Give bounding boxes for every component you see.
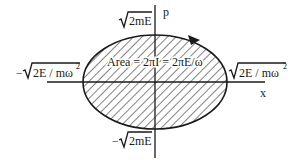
svg-text:2E / mω: 2E / mω [33, 66, 73, 80]
p-min-label: − 2mE [112, 132, 152, 148]
svg-text:Area = 2πI = 2πE/ω: Area = 2πI = 2πE/ω [107, 55, 203, 69]
svg-text:2mE: 2mE [129, 14, 152, 28]
phase-space-diagram: p x 2mE − 2mE − 2E / mω 2 2E / mω 2 Area… [0, 0, 302, 166]
area-annotation: Area = 2πI = 2πE/ω [107, 55, 203, 69]
x-min-label: − 2E / mω 2 [16, 62, 80, 80]
p-axis-label: p [163, 5, 169, 19]
x-max-label: 2E / mω 2 [229, 62, 287, 80]
svg-text:2E / mω: 2E / mω [239, 66, 279, 80]
svg-text:2: 2 [76, 62, 80, 71]
x-axis-label: x [260, 86, 266, 100]
svg-text:2: 2 [283, 62, 287, 71]
svg-text:−: − [16, 66, 23, 80]
svg-text:−: − [112, 134, 119, 148]
svg-text:2mE: 2mE [129, 134, 152, 148]
p-max-label: 2mE [119, 12, 152, 28]
